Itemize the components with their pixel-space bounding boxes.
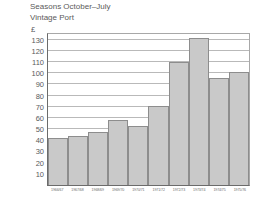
bar[interactable] bbox=[169, 62, 189, 185]
bar-chart: Seasons October–July Vintage Port £ 1020… bbox=[0, 0, 265, 215]
y-axis-tick-label: 10 bbox=[36, 169, 44, 178]
y-axis-tick-label: 30 bbox=[36, 147, 44, 156]
x-axis-tick-label: 1971/72 bbox=[148, 188, 168, 192]
y-axis-tick-label: 70 bbox=[36, 102, 44, 111]
page-title: Seasons October–July bbox=[30, 2, 111, 13]
x-axis-tick-label: 1969/70 bbox=[108, 188, 128, 192]
x-axis-tick-label: 1973/74 bbox=[189, 188, 209, 192]
bar[interactable] bbox=[108, 120, 128, 185]
bar-series bbox=[48, 34, 249, 185]
y-axis-tick-label: 60 bbox=[36, 113, 44, 122]
plot-area: 102030405060708090100110120130 bbox=[47, 33, 250, 186]
x-axis-labels: 1966/671967/681968/691969/701970/711971/… bbox=[47, 188, 250, 192]
y-axis-tick-label: 80 bbox=[36, 91, 44, 100]
y-axis-tick-label: 130 bbox=[31, 35, 44, 44]
bar[interactable] bbox=[209, 78, 229, 185]
bar[interactable] bbox=[189, 38, 209, 185]
chart-title-block: Seasons October–July Vintage Port bbox=[30, 2, 111, 23]
y-axis-tick-label: 90 bbox=[36, 80, 44, 89]
chart-subtitle: Vintage Port bbox=[30, 13, 111, 24]
bar[interactable] bbox=[128, 126, 148, 185]
x-axis-tick-label: 1966/67 bbox=[47, 188, 67, 192]
y-axis-tick-label: 40 bbox=[36, 136, 44, 145]
y-axis-tick-label: 50 bbox=[36, 125, 44, 134]
x-axis-tick-label: 1968/69 bbox=[88, 188, 108, 192]
x-axis-tick-label: 1974/75 bbox=[209, 188, 229, 192]
bar[interactable] bbox=[148, 106, 168, 185]
y-axis-tick-label: 120 bbox=[31, 46, 44, 55]
bar[interactable] bbox=[48, 138, 68, 185]
x-axis-tick-label: 1972/73 bbox=[169, 188, 189, 192]
y-axis-tick-label: 110 bbox=[32, 57, 44, 66]
y-axis-tick-label: 20 bbox=[36, 158, 44, 167]
bar[interactable] bbox=[229, 72, 249, 185]
bar[interactable] bbox=[68, 136, 88, 185]
x-axis-tick-label: 1975/76 bbox=[230, 188, 250, 192]
x-axis-tick-label: 1967/68 bbox=[67, 188, 87, 192]
bar[interactable] bbox=[88, 132, 108, 185]
y-axis-tick-label: 100 bbox=[31, 69, 44, 78]
x-axis-tick-label: 1970/71 bbox=[128, 188, 148, 192]
y-axis-unit-label: £ bbox=[31, 25, 35, 34]
